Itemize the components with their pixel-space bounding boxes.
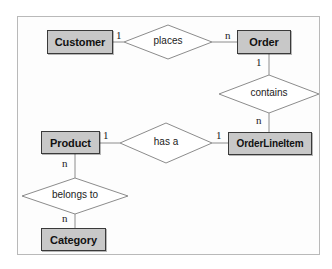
entity-product[interactable]: Product: [41, 131, 100, 154]
er-diagram-canvas: Customer Order OrderLineItem Product Cat…: [0, 0, 332, 269]
entity-category-label: Category: [50, 234, 97, 246]
cardinality-places-order: n: [225, 29, 231, 41]
relationship-diamond-contains: [219, 75, 319, 113]
relationship-diamond-belongs-to: [22, 178, 128, 214]
cardinality-belongsto-category: n: [62, 212, 68, 224]
cardinality-contains-orderlineitem: n: [256, 114, 262, 126]
entity-orderlineitem[interactable]: OrderLineItem: [228, 132, 312, 155]
entity-customer[interactable]: Customer: [47, 30, 113, 54]
cardinality-order-contains: 1: [256, 56, 262, 68]
entity-product-label: Product: [50, 137, 91, 149]
relationship-diamond-has-a: [120, 123, 212, 163]
cardinality-product-hasa: 1: [103, 129, 109, 141]
entity-customer-label: Customer: [55, 36, 106, 48]
relationship-diamond-places: [124, 25, 212, 59]
cardinality-customer-places: 1: [116, 29, 122, 41]
entity-orderlineitem-label: OrderLineItem: [236, 138, 303, 149]
entity-order[interactable]: Order: [237, 30, 291, 54]
entity-order-label: Order: [249, 36, 278, 48]
cardinality-product-belongsto: n: [62, 157, 68, 169]
entity-category[interactable]: Category: [41, 228, 106, 251]
cardinality-hasa-orderlineitem: 1: [216, 129, 222, 141]
